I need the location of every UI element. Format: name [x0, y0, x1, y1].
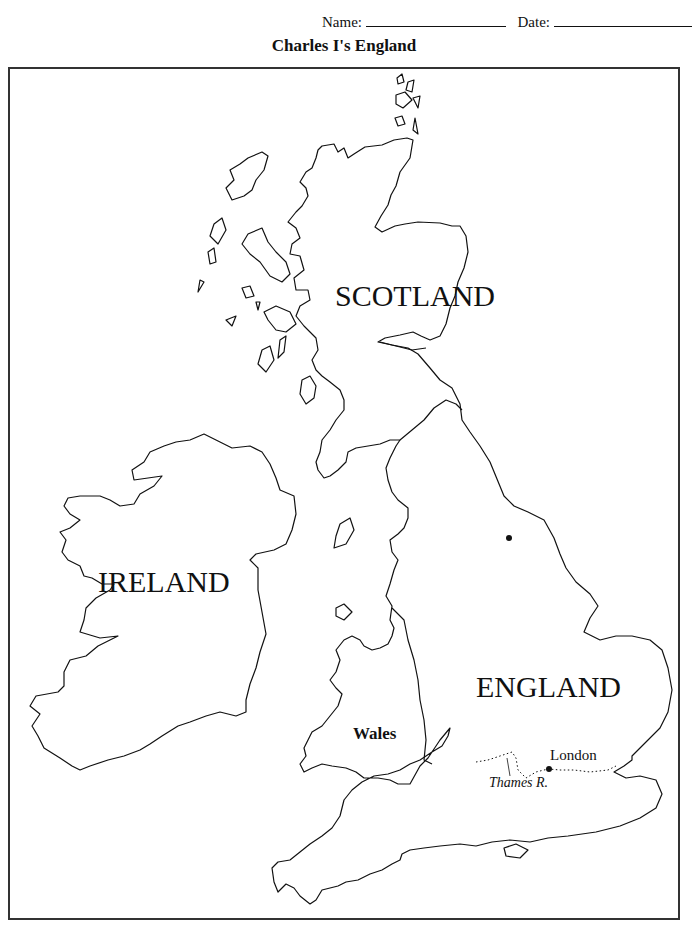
- isle-of-wight: [504, 844, 528, 858]
- london-marker: [546, 766, 552, 772]
- isle-of-man: [334, 518, 354, 548]
- ireland-label: IRELAND: [98, 565, 230, 599]
- london-label: London: [550, 747, 597, 764]
- outer-hebrides: [198, 152, 268, 292]
- york-marker: [506, 535, 512, 541]
- arran: [300, 376, 316, 404]
- wales-england-border: [392, 608, 432, 764]
- skye: [242, 228, 290, 282]
- anglesey: [336, 604, 352, 620]
- mull: [264, 306, 296, 332]
- firth-of-forth: [380, 342, 426, 350]
- thames-leader-line: [507, 758, 510, 776]
- small-isles: [226, 286, 260, 326]
- scotland-label: SCOTLAND: [335, 279, 495, 313]
- thames-label: Thames R.: [489, 775, 548, 791]
- scotland-england-border: [400, 400, 462, 440]
- england-label: ENGLAND: [476, 670, 621, 704]
- orkney-islands: [395, 74, 420, 134]
- ireland-outline: [30, 434, 296, 770]
- islay-jura: [258, 336, 286, 372]
- great-britain-outline: [272, 138, 672, 904]
- wales-label: Wales: [353, 724, 396, 744]
